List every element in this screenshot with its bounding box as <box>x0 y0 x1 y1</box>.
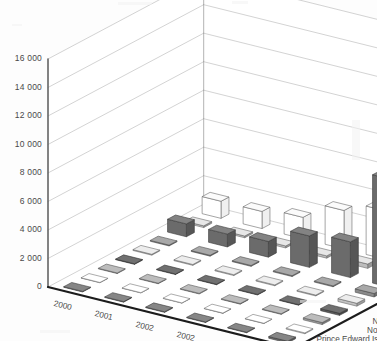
z-axis-series-label: Manitoba <box>0 308 377 317</box>
z-axis-series-label: Alberta <box>0 289 377 298</box>
z-axis-series-label: New Brunswick <box>0 317 377 326</box>
scan-artifact <box>12 24 22 26</box>
y-axis-tick-label: 4 000 <box>0 224 42 234</box>
y-axis-tick-label: 8 000 <box>0 167 42 177</box>
scan-artifact <box>40 330 70 333</box>
chart-3d-column: 02 0004 0006 0008 00010 00012 00014 0001… <box>0 0 377 341</box>
y-axis-tick-label: 16 000 <box>0 53 42 63</box>
scan-artifact <box>352 120 360 160</box>
y-axis-tick-label: 6 000 <box>0 196 42 206</box>
y-axis-tick-label: 12 000 <box>0 110 42 120</box>
scan-artifact <box>232 1 248 4</box>
z-axis-series-label: British Columbia <box>0 280 377 289</box>
y-axis-tick-label: 14 000 <box>0 82 42 92</box>
y-axis-tick-label: 10 000 <box>0 139 42 149</box>
scan-artifact <box>118 2 152 5</box>
z-axis-series-label: Prince Edward Island <box>0 335 377 341</box>
scan-artifact <box>300 300 326 303</box>
y-axis-tick-label: 2 000 <box>0 253 42 263</box>
z-axis-series-label: Total <box>0 271 377 280</box>
